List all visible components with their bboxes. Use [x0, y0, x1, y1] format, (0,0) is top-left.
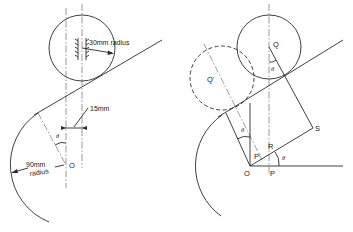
theta-arc-p	[275, 152, 279, 166]
theta-arc	[55, 142, 66, 145]
arrowhead-icon	[108, 51, 115, 56]
theta-label: θ	[56, 132, 60, 139]
theta-arc-o	[237, 136, 250, 139]
theta-label-p: θ	[282, 154, 286, 161]
theta-label-o: θ	[241, 126, 245, 133]
right-panel: θ θ θ Q Q' S R P' O P	[190, 4, 343, 216]
cam-centre-label: O	[69, 161, 75, 170]
offset-label: 15mm	[90, 105, 110, 112]
cam-base-arc	[195, 115, 222, 216]
offset-leader	[74, 108, 88, 127]
cam-radius-label-2: radius	[29, 167, 49, 177]
cam-flank-line	[218, 40, 343, 117]
q-prime-centre-line	[204, 44, 262, 160]
point-r-label: R	[268, 142, 274, 151]
cam-follower-diagram: 30mm radius 90mm radius 15mm θ O	[0, 0, 353, 232]
follower-radius-label: 30mm radius	[89, 39, 130, 46]
cam-radius-label: 90mm	[26, 161, 46, 168]
point-q-label: Q	[273, 40, 279, 49]
cam-flank-line	[34, 40, 162, 115]
left-panel: 30mm radius 90mm radius 15mm θ O	[10, 4, 162, 222]
point-s-label: S	[315, 124, 320, 133]
point-p-prime-label: P'	[254, 152, 261, 161]
arrowhead-icon	[82, 126, 87, 130]
arrowhead-icon	[61, 126, 66, 130]
line-q-s	[269, 47, 313, 128]
normal-line-o	[226, 113, 250, 166]
point-o-label: O	[244, 169, 250, 178]
theta-label-q: θ	[271, 65, 275, 72]
point-p-label: P	[270, 169, 275, 178]
theta-arc-q	[269, 60, 276, 62]
arrowhead-icon	[11, 169, 18, 173]
point-q-prime-label: Q'	[207, 75, 215, 84]
cam-radius-dim-line	[38, 113, 66, 165]
